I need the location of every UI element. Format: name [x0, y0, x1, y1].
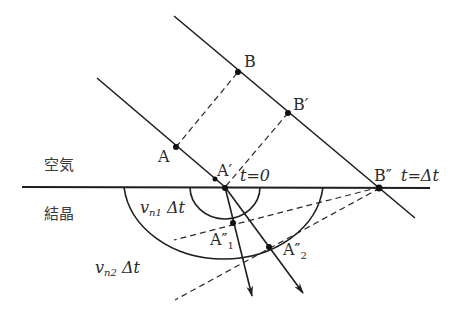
- label-b-double-prime: B″: [374, 166, 392, 185]
- point-b-prime: [285, 110, 291, 116]
- wavefront-ab: [176, 72, 238, 147]
- tangent-line-2: [175, 188, 380, 300]
- label-a1-sub: 1: [228, 240, 234, 251]
- label-a: A: [157, 147, 170, 166]
- label-r2-v: v: [95, 258, 104, 277]
- point-a1-double-prime: [230, 220, 236, 226]
- label-r2-rest: Δt: [117, 258, 141, 277]
- point-a: [173, 144, 179, 150]
- label-a2-main: A″: [282, 240, 301, 259]
- label-radius-1: vn1 Δt: [140, 198, 186, 218]
- label-b: B: [244, 52, 256, 71]
- wavelet-small: [190, 187, 260, 219]
- label-a-prime: A′: [216, 161, 233, 180]
- label-r2-sub: n2: [104, 267, 117, 278]
- label-crystal: 結晶: [44, 205, 74, 223]
- label-a2-sub: 2: [301, 250, 307, 261]
- label-radius-2: vn2 Δt: [95, 258, 141, 278]
- label-b-prime: B′: [293, 95, 309, 114]
- refraction-diagram: 空気 結晶 A B B′ A′ t=0 B″ t=Δt A″1 A″2 vn1 …: [0, 0, 463, 314]
- label-r1-rest: Δt: [162, 198, 186, 217]
- label-a2-double-prime: A″2: [282, 240, 307, 261]
- point-b-double-prime: [376, 185, 383, 192]
- point-a-prime: [222, 185, 228, 191]
- label-a1-double-prime: A″1: [209, 230, 234, 251]
- label-a1-main: A″: [209, 230, 228, 249]
- point-a2-double-prime: [266, 244, 272, 250]
- label-t-dt: t=Δt: [401, 166, 439, 185]
- label-r1-v: v: [140, 198, 149, 217]
- label-t0: t=0: [240, 166, 270, 185]
- label-air: 空気: [44, 156, 74, 174]
- incident-ray-a: [97, 78, 225, 187]
- label-r1-sub: n1: [149, 207, 162, 218]
- point-b: [235, 69, 241, 75]
